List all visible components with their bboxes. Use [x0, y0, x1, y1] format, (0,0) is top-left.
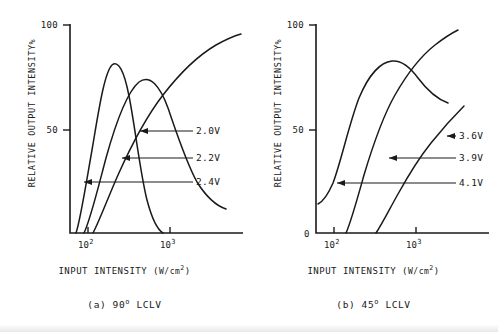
caption-b-degree: o [374, 298, 379, 306]
ytick-label-100-b: 100 [276, 20, 304, 30]
xtick-1e3-b-mantissa: 10 [406, 240, 417, 250]
series-label-3-9v: 3.9V [459, 152, 483, 163]
leader-arrow-2-4v [84, 179, 92, 185]
xaxis-title-b-close: ) [434, 266, 440, 276]
series-label-2-2v: 2.2V [196, 152, 220, 163]
xaxis-title-b-unit: W/cm [408, 267, 429, 276]
caption-b-angle: 45 [362, 299, 375, 310]
caption-a: (a) 90o LCLV [0, 298, 249, 310]
origin-label-b: 0 [304, 229, 309, 239]
yaxis-title-b-unit: % [273, 39, 283, 45]
yaxis-title-a-unit: % [27, 39, 37, 45]
yaxis-title-b: RELATIVE OUTPUT INTENSITY% [273, 13, 283, 213]
xtick-label-1e3-a: 103 [160, 238, 176, 250]
xtick-1e3-a-exp: 3 [171, 238, 175, 246]
xaxis-title-b-main: INPUT INTENSITY ( [307, 266, 408, 276]
ytick-label-50-b: 50 [276, 125, 304, 135]
figure-container: RELATIVE OUTPUT INTENSITY% 100 50 102 10… [0, 0, 498, 332]
caption-a-prefix: (a) [87, 299, 106, 310]
xaxis-title-a-main: INPUT INTENSITY ( [58, 266, 159, 276]
plot-area-panel-a [0, 0, 249, 332]
xtick-label-1e2-b: 102 [324, 238, 340, 250]
series-label-3-6v: 3.6V [459, 130, 483, 141]
ytick-label-50-a: 50 [30, 125, 58, 135]
ytick-label-100-a: 100 [30, 20, 58, 30]
curve-2-4v [76, 64, 163, 233]
leader-arrow-4-1v [337, 180, 345, 186]
xaxis-title-a-unit: W/cm [159, 267, 180, 276]
xtick-1e2-b-mantissa: 10 [324, 240, 335, 250]
caption-b-device: LCLV [385, 299, 410, 310]
xaxis-title-b: INPUT INTENSITY (W/cm2) [249, 264, 498, 276]
caption-a-device: LCLV [136, 299, 161, 310]
xaxis-title-a: INPUT INTENSITY (W/cm2) [0, 264, 249, 276]
panel-45-lclv: RELATIVE OUTPUT INTENSITY% 100 50 102 10… [249, 0, 498, 332]
xtick-label-1e2-a: 102 [78, 238, 94, 250]
xtick-1e2-a-exp: 2 [89, 238, 93, 246]
yaxis-title-b-text: RELATIVE OUTPUT INTENSITY [273, 44, 283, 187]
plot-area-panel-b [249, 0, 498, 332]
caption-a-angle: 90 [113, 299, 126, 310]
leader-arrow-3-9v [389, 155, 397, 161]
series-label-4-1v: 4.1V [459, 177, 483, 188]
xtick-1e3-b-exp: 3 [417, 238, 421, 246]
series-label-2-4v: 2.4V [196, 176, 220, 187]
yaxis-title-a: RELATIVE OUTPUT INTENSITY% [27, 13, 37, 213]
panel-90-lclv: RELATIVE OUTPUT INTENSITY% 100 50 102 10… [0, 0, 249, 332]
xtick-1e2-b-exp: 2 [335, 238, 339, 246]
axis-lines-b [316, 24, 489, 233]
series-label-2-0v: 2.0V [196, 125, 220, 136]
xtick-1e2-a-mantissa: 10 [78, 240, 89, 250]
xtick-1e3-a-mantissa: 10 [160, 240, 171, 250]
caption-b-prefix: (b) [336, 299, 355, 310]
yaxis-title-a-text: RELATIVE OUTPUT INTENSITY [27, 44, 37, 187]
caption-a-degree: o [125, 298, 130, 306]
leader-arrow-2-2v [122, 155, 130, 161]
xtick-label-1e3-b: 103 [406, 238, 422, 250]
leader-arrow-3-6v [447, 133, 455, 139]
curve-3-6v [376, 106, 464, 233]
xaxis-title-a-close: ) [185, 266, 191, 276]
caption-b: (b) 45o LCLV [249, 298, 498, 310]
